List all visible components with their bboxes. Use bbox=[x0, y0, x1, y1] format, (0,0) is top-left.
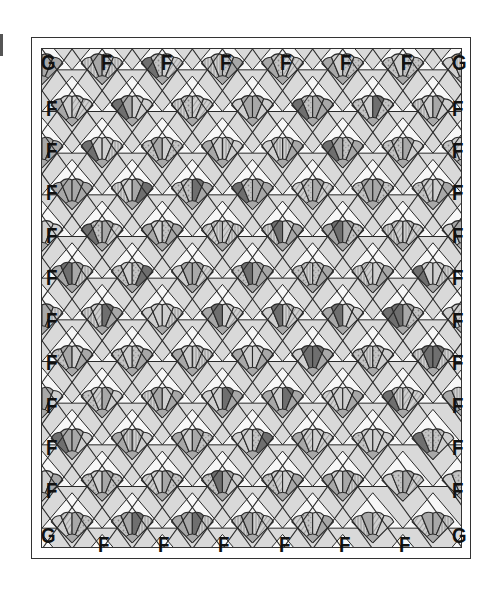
fan-blocks-grid bbox=[42, 49, 462, 548]
left-label: F bbox=[46, 352, 57, 374]
right-label: F bbox=[452, 480, 463, 502]
fan-block bbox=[102, 76, 162, 126]
fan-block bbox=[192, 118, 252, 168]
bottom-label: F bbox=[218, 534, 229, 556]
right-label: F bbox=[452, 267, 463, 289]
top-label: F bbox=[401, 52, 412, 74]
fan-block bbox=[162, 76, 222, 126]
bottom-label: F bbox=[98, 534, 109, 556]
fan-block bbox=[132, 118, 192, 168]
fan-block bbox=[132, 284, 192, 334]
fan-block bbox=[313, 201, 373, 251]
fan-block bbox=[283, 243, 343, 293]
fan-block bbox=[313, 451, 373, 501]
fan-block bbox=[253, 368, 313, 418]
fan-block bbox=[343, 76, 403, 126]
fan-block bbox=[283, 493, 343, 543]
fan-block bbox=[253, 284, 313, 334]
top-label: F bbox=[340, 52, 351, 74]
fan-block bbox=[222, 159, 282, 209]
fan-block bbox=[192, 451, 252, 501]
corner-label-top-right: G bbox=[452, 52, 467, 74]
fan-block bbox=[132, 201, 192, 251]
bottom-label: F bbox=[158, 534, 169, 556]
fan-block bbox=[283, 159, 343, 209]
right-label: F bbox=[452, 182, 463, 204]
left-label: F bbox=[46, 267, 57, 289]
fan-block bbox=[343, 326, 403, 376]
top-label: F bbox=[101, 52, 112, 74]
fan-block bbox=[343, 409, 403, 459]
fan-block bbox=[102, 409, 162, 459]
fan-block bbox=[102, 493, 162, 543]
fan-block bbox=[72, 451, 132, 501]
left-label: F bbox=[46, 98, 57, 120]
fan-block bbox=[192, 201, 252, 251]
fan-block bbox=[313, 284, 373, 334]
fan-block bbox=[72, 118, 132, 168]
fan-block bbox=[162, 493, 222, 543]
fan-block bbox=[313, 118, 373, 168]
left-label: F bbox=[46, 480, 57, 502]
edge-mark bbox=[0, 34, 3, 56]
top-label: F bbox=[280, 52, 291, 74]
corner-label-bottom-left: G bbox=[41, 525, 56, 547]
right-label: F bbox=[452, 310, 463, 332]
left-label: F bbox=[46, 225, 57, 247]
fan-block bbox=[373, 284, 433, 334]
fan-block bbox=[102, 326, 162, 376]
fan-block bbox=[373, 451, 433, 501]
fan-block bbox=[192, 284, 252, 334]
quilt-diagram: GGGGFFFFFFFFFFFFFFFFFFFFFFFFFFFFFFFF bbox=[0, 0, 498, 598]
right-label: F bbox=[452, 437, 463, 459]
fan-block bbox=[132, 451, 192, 501]
fan-block bbox=[222, 326, 282, 376]
fan-block bbox=[313, 368, 373, 418]
fan-block bbox=[162, 243, 222, 293]
fan-block bbox=[283, 409, 343, 459]
right-label: F bbox=[452, 395, 463, 417]
fan-block bbox=[222, 243, 282, 293]
fan-block bbox=[72, 284, 132, 334]
left-label: F bbox=[46, 310, 57, 332]
left-label: F bbox=[46, 395, 57, 417]
bottom-label: F bbox=[399, 534, 410, 556]
fan-block bbox=[72, 368, 132, 418]
fan-block bbox=[283, 326, 343, 376]
bottom-label: F bbox=[279, 534, 290, 556]
fan-block bbox=[373, 201, 433, 251]
right-label: F bbox=[452, 140, 463, 162]
fan-block bbox=[283, 76, 343, 126]
right-label: F bbox=[452, 352, 463, 374]
top-label: F bbox=[220, 52, 231, 74]
corner-label-top-left: G bbox=[41, 52, 56, 74]
right-label: F bbox=[452, 225, 463, 247]
fan-block bbox=[102, 159, 162, 209]
fan-block bbox=[253, 118, 313, 168]
fan-block bbox=[192, 368, 252, 418]
corner-label-bottom-right: G bbox=[452, 525, 467, 547]
fan-block bbox=[102, 243, 162, 293]
fan-block bbox=[373, 368, 433, 418]
fan-block bbox=[222, 493, 282, 543]
fan-block bbox=[162, 326, 222, 376]
fan-block bbox=[72, 201, 132, 251]
fan-block bbox=[343, 243, 403, 293]
top-label: F bbox=[161, 52, 172, 74]
bottom-label: F bbox=[339, 534, 350, 556]
fan-block bbox=[162, 159, 222, 209]
left-label: F bbox=[46, 140, 57, 162]
fan-block bbox=[343, 493, 403, 543]
fan-block bbox=[373, 118, 433, 168]
fan-block bbox=[222, 76, 282, 126]
left-label: F bbox=[46, 182, 57, 204]
fan-block bbox=[162, 409, 222, 459]
right-label: F bbox=[452, 98, 463, 120]
quilt-field bbox=[41, 48, 462, 548]
fan-block bbox=[343, 159, 403, 209]
fan-block bbox=[253, 451, 313, 501]
left-label: F bbox=[46, 437, 57, 459]
fan-block bbox=[132, 368, 192, 418]
fan-block bbox=[222, 409, 282, 459]
fan-block bbox=[253, 201, 313, 251]
